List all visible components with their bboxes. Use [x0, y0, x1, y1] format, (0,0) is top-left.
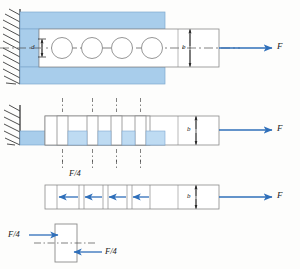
- label-F-assembly: F: [277, 42, 283, 51]
- rivet: [142, 38, 163, 59]
- fastener-section: [57, 116, 68, 145]
- fastener-section: [111, 116, 122, 145]
- figure-canvas: [0, 0, 300, 269]
- label-F4-lower: F/4: [105, 247, 117, 256]
- riveted-joint-figure: d b F b F F/4 b F F/4 F/4: [0, 0, 300, 269]
- label-b-assembly: b: [182, 44, 186, 51]
- label-F-fbd: F: [277, 191, 283, 200]
- fastener-section: [87, 116, 98, 145]
- panel-assembly: [0, 9, 272, 84]
- fastener-axis-group-fbd: [63, 160, 141, 168]
- label-b-section: b: [187, 126, 191, 133]
- label-F4-upper: F/4: [8, 230, 20, 239]
- rivet: [52, 38, 73, 59]
- rivet: [82, 38, 103, 59]
- panel-exploded: [4, 98, 272, 162]
- label-F-section: F: [277, 124, 283, 133]
- panel-fbd-fastener: [29, 224, 102, 262]
- label-F4-strap: F/4: [69, 169, 81, 178]
- rivet: [112, 38, 133, 59]
- fastener-section: [135, 116, 146, 145]
- label-b-fbd: b: [187, 193, 191, 200]
- fixed-wall-hatching-2: [4, 105, 20, 145]
- fixed-wall-hatching: [3, 9, 20, 84]
- label-d-diameter: d: [31, 44, 35, 51]
